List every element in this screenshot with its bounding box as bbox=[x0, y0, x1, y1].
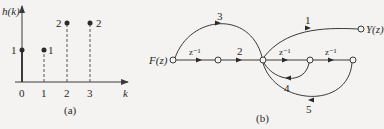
value-label-k0: 1 bbox=[11, 44, 17, 56]
branch-label-4: 4 bbox=[284, 82, 290, 94]
input-label: F(z) bbox=[148, 54, 168, 67]
arrow-icon bbox=[305, 26, 311, 31]
point-k1 bbox=[42, 48, 47, 53]
caption-b: (b) bbox=[256, 112, 269, 125]
y-axis-label: h(k) bbox=[2, 5, 20, 18]
branch-label-3: 3 bbox=[217, 10, 223, 22]
branch-label-1: 1 bbox=[305, 14, 311, 26]
figure-canvas: h(k) k 1 1 2 2 0 1 2 3 (a) bbox=[0, 0, 384, 129]
x-axis-label: k bbox=[123, 87, 129, 99]
tick-label-0: 0 bbox=[19, 87, 25, 99]
node-2 bbox=[215, 57, 221, 63]
arrow-icon bbox=[285, 76, 291, 81]
tick-label-1: 1 bbox=[41, 87, 47, 99]
point-k0 bbox=[20, 48, 25, 53]
output-label: Y(z) bbox=[366, 23, 384, 36]
value-label-k3: 2 bbox=[96, 17, 102, 29]
branch-feedback-4 bbox=[264, 63, 309, 78]
branch-label-z-inverse-3: z⁻¹ bbox=[325, 47, 337, 57]
caption-a: (a) bbox=[64, 104, 77, 117]
node-input bbox=[170, 57, 176, 63]
arrow-icon bbox=[236, 58, 242, 63]
point-k2 bbox=[65, 21, 70, 26]
branch-label-2: 2 bbox=[237, 45, 243, 57]
tick-label-3: 3 bbox=[87, 87, 93, 99]
point-k3 bbox=[88, 21, 93, 26]
branch-label-z-inverse-1: z⁻¹ bbox=[189, 47, 201, 57]
branch-label-5: 5 bbox=[306, 103, 312, 115]
stem-plot: h(k) k 1 1 2 2 0 1 2 3 (a) bbox=[2, 5, 129, 117]
value-label-k2: 2 bbox=[56, 17, 62, 29]
arrow-icon bbox=[282, 58, 288, 63]
tick-label-2: 2 bbox=[64, 87, 70, 99]
arrow-icon bbox=[328, 58, 334, 63]
node-output bbox=[358, 26, 364, 32]
branch-label-z-inverse-2: z⁻¹ bbox=[279, 47, 291, 57]
node-4 bbox=[307, 57, 313, 63]
value-label-k1: 1 bbox=[48, 44, 54, 56]
arrow-icon bbox=[308, 98, 314, 103]
node-junction bbox=[260, 57, 266, 63]
node-5 bbox=[350, 57, 356, 63]
arrow-icon bbox=[196, 58, 202, 63]
